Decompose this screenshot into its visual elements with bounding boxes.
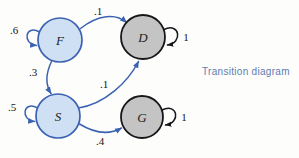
edge-f-to-d <box>81 16 127 28</box>
node-f[interactable]: F <box>38 18 82 62</box>
diagram-caption: Transition diagram <box>202 66 290 77</box>
diagram-canvas: F D S G .6 .1 .3 .5 .1 <box>0 0 299 158</box>
edge-label-f-to-d: .1 <box>94 5 102 17</box>
edge-label-s-self: .5 <box>8 101 17 113</box>
node-g[interactable]: G <box>121 96 163 138</box>
node-s-label: S <box>55 109 62 124</box>
self-loop-d <box>164 28 178 45</box>
edge-label-s-to-d: .1 <box>100 78 108 90</box>
edge-f-to-s <box>47 62 52 94</box>
edge-s-to-g <box>80 124 122 132</box>
node-d[interactable]: D <box>121 15 165 59</box>
self-loop-g <box>162 108 176 125</box>
node-f-label: F <box>55 33 65 48</box>
node-s[interactable]: S <box>36 94 80 138</box>
edge-label-g-self: 1 <box>181 111 187 123</box>
edge-label-f-to-s: .3 <box>29 66 38 78</box>
edge-label-f-self: .6 <box>10 24 19 36</box>
node-g-label: G <box>137 110 147 125</box>
edge-label-d-self: 1 <box>183 31 189 43</box>
transition-diagram: F D S G .6 .1 .3 .5 .1 <box>0 0 299 158</box>
node-d-label: D <box>137 30 148 45</box>
node-group: F D S G <box>36 15 165 138</box>
edge-label-s-to-g: .4 <box>96 135 105 147</box>
